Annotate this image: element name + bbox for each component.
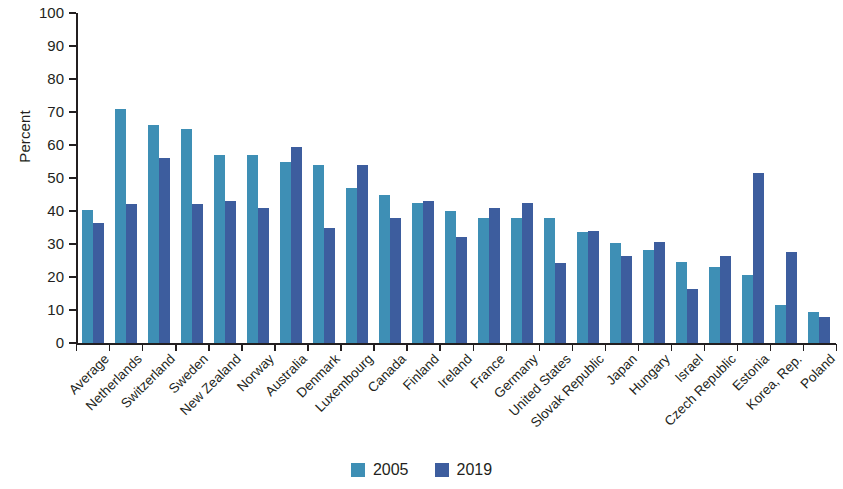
x-axis-tick [473, 344, 474, 351]
bar-group [313, 13, 335, 343]
x-axis-tick [142, 344, 143, 351]
bar [390, 218, 401, 343]
bar-group [742, 13, 764, 343]
bar [423, 201, 434, 343]
x-axis-tick [340, 344, 341, 351]
x-axis-tick [109, 344, 110, 351]
y-axis-tick-label: 0 [20, 335, 64, 350]
legend-swatch-icon [351, 463, 365, 477]
bar [588, 231, 599, 343]
legend-item[interactable]: 2019 [435, 462, 493, 478]
bar [192, 204, 203, 343]
bar-group [280, 13, 302, 343]
bar [808, 312, 819, 343]
bar-group [676, 13, 698, 343]
y-axis-tick [69, 111, 76, 112]
y-axis-tick-label: 40 [20, 203, 64, 218]
x-axis-tick [506, 344, 507, 351]
x-axis-tick [373, 344, 374, 351]
bar-group [82, 13, 104, 343]
bar [819, 317, 830, 343]
bar [786, 252, 797, 343]
bar-group [412, 13, 434, 343]
x-axis-tick [208, 344, 209, 351]
bar-group [610, 13, 632, 343]
x-axis-tick [770, 344, 771, 351]
legend-label: 2019 [457, 462, 493, 478]
bar-group [247, 13, 269, 343]
y-axis-tick [69, 45, 76, 46]
chart-legend: 20052019 [0, 462, 843, 478]
bar [720, 256, 731, 343]
y-axis-tick-label: 20 [20, 269, 64, 284]
x-axis-tick [803, 344, 804, 351]
bar-group [511, 13, 533, 343]
bar [280, 162, 291, 344]
y-axis-tick-label: 90 [20, 38, 64, 53]
bar [610, 243, 621, 343]
bar [544, 218, 555, 343]
y-axis-tick [69, 309, 76, 310]
bar [577, 232, 588, 343]
bar [357, 165, 368, 343]
y-axis-tick-label: 80 [20, 71, 64, 86]
bar [126, 204, 137, 343]
x-axis-tick [836, 344, 837, 351]
bar [621, 256, 632, 343]
bar [456, 237, 467, 343]
x-axis-tick [605, 344, 606, 351]
y-axis-tick [69, 144, 76, 145]
y-axis-tick-label: 50 [20, 170, 64, 185]
bar [555, 263, 566, 343]
bar [379, 195, 390, 344]
y-axis-tick-label: 100 [20, 5, 64, 20]
bar-group [214, 13, 236, 343]
y-axis-tick [69, 210, 76, 211]
x-axis-tick [307, 344, 308, 351]
y-axis-tick-label: 60 [20, 137, 64, 152]
bar [313, 165, 324, 343]
bar-group [148, 13, 170, 343]
bar-group [115, 13, 137, 343]
bar-group [181, 13, 203, 343]
legend-label: 2005 [373, 462, 409, 478]
x-axis-tick [638, 344, 639, 351]
y-axis-tick [69, 243, 76, 244]
legend-swatch-icon [435, 463, 449, 477]
bar [676, 262, 687, 343]
legend-item[interactable]: 2005 [351, 462, 409, 478]
y-axis-tick [69, 342, 76, 343]
y-axis-tick-label: 30 [20, 236, 64, 251]
bar [82, 210, 93, 343]
y-axis-tick [69, 12, 76, 13]
x-axis-tick [175, 344, 176, 351]
x-axis-tick [572, 344, 573, 351]
bar-group [346, 13, 368, 343]
bar [742, 275, 753, 343]
bar [247, 155, 258, 343]
bar [291, 147, 302, 343]
bar [412, 203, 423, 343]
plot-area: 0102030405060708090100 [76, 13, 836, 343]
x-axis-tick [737, 344, 738, 351]
bar-group [445, 13, 467, 343]
bar [478, 218, 489, 343]
x-axis-tick [76, 344, 77, 351]
bar-group [544, 13, 566, 343]
bar [324, 228, 335, 344]
bar [225, 201, 236, 343]
y-axis-tick [69, 177, 76, 178]
bar [709, 267, 720, 343]
x-axis-tick [539, 344, 540, 351]
bar-group [808, 13, 830, 343]
bar [775, 305, 786, 343]
bar [181, 129, 192, 344]
bar-group [709, 13, 731, 343]
bar-group [577, 13, 599, 343]
bar-group [643, 13, 665, 343]
bar-group [478, 13, 500, 343]
x-axis-tick [671, 344, 672, 351]
y-axis-tick-label: 10 [20, 302, 64, 317]
x-axis-tick [439, 344, 440, 351]
bar [643, 250, 654, 343]
